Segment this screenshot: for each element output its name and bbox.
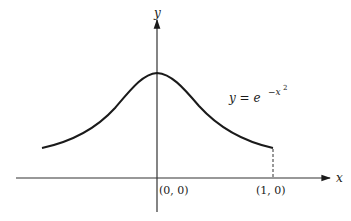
eq-base: e (253, 91, 260, 105)
point-1-label: (1, 0) (256, 184, 286, 197)
y-axis-label: y (153, 6, 161, 20)
eq-exp-var: x (276, 87, 281, 97)
eq-sign: = (236, 91, 254, 105)
svg-text:−x: −x (268, 87, 281, 97)
origin-label: (0, 0) (159, 184, 189, 197)
svg-text:y = e: y = e (228, 91, 261, 105)
curve-equation: y = e −x 2 (228, 84, 287, 105)
eq-exp-pow: 2 (283, 84, 287, 92)
x-axis-label: x (336, 171, 343, 185)
eq-exp-sign: − (268, 87, 276, 97)
diagram-canvas: y x (0, 0) (1, 0) y = e −x 2 (0, 0, 351, 221)
